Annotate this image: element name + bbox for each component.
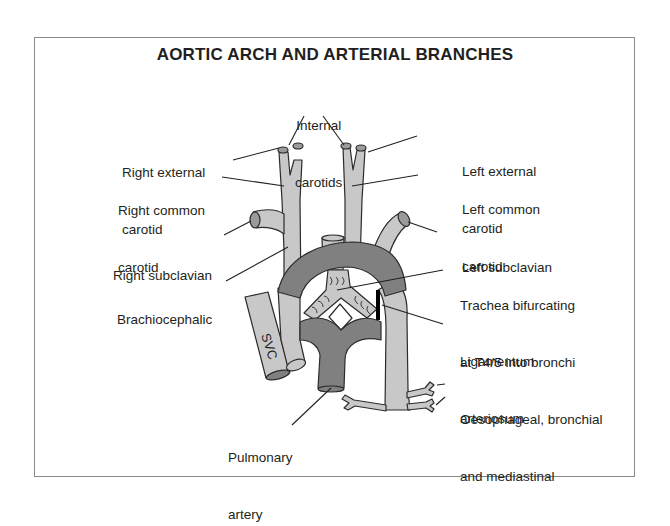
label-pulmonary-artery: Pulmonary artery bbox=[228, 410, 293, 526]
descending-aorta-vessel bbox=[378, 280, 410, 410]
label-brachiocephalic: Brachiocephalic bbox=[117, 272, 212, 348]
label-internal-carotids: Internal carotids bbox=[295, 78, 342, 211]
pulmonary-artery-vessel bbox=[300, 318, 381, 392]
right-subclavian-vessel bbox=[250, 210, 284, 234]
label-oesophageal-bronchial-mediastinal: Oesophageal, bronchial and mediastinal bbox=[460, 372, 603, 505]
